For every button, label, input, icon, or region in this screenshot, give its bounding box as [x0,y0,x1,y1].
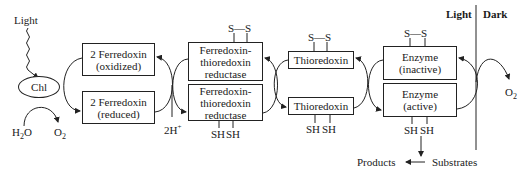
trx-sh-label-2: SH [322,123,336,135]
light-wavy-arrow [27,28,39,78]
thioredoxin-reduced-box: Thioredoxin [288,97,354,115]
box-line: (oxidized) [96,60,141,72]
enzyme-sh-label-1: SH [404,124,418,136]
enzyme-active-box: Enzyme (active) [383,83,457,117]
oxygen-left-label: O2 [54,126,66,143]
box-line: Ferredoxin- [200,85,252,97]
ferredoxin-oxidized-box: 2 Ferredoxin (oxidized) [82,43,155,76]
box-line: Thioredoxin [294,100,348,112]
box-line: thioredoxin [200,56,251,68]
light-label: Light [14,14,38,26]
trx-disulfide-label: S—S [308,31,331,43]
chlorophyll-label: Chl [31,81,47,93]
products-label: Products [357,156,396,168]
light-region-label: Light [446,8,472,20]
box-line: reductase [205,68,247,80]
ftr-disulfide-label: S—S [228,22,251,34]
box-line: thioredoxin [200,97,251,109]
ftr-sh-label-1: SH [211,128,225,140]
box-line: reductase [205,109,247,121]
enzyme-sh-label-2: SH [420,124,434,136]
box-line: Enzyme [402,88,438,100]
box-line: (active) [403,100,437,112]
box-line: Ferredoxin- [200,44,252,56]
box-line: (reduced) [97,108,139,120]
ferredoxin-reduced-box: 2 Ferredoxin (reduced) [82,91,155,124]
oxygen-right-label: O2 [505,86,517,103]
box-line: Enzyme [402,51,438,63]
substrates-label: Substrates [432,156,477,168]
water-split-arc [24,107,58,126]
chl-to-fd-arc [64,58,82,111]
protons-label: 2H+ [164,121,181,136]
thioredoxin-oxidized-box: Thioredoxin [288,51,354,69]
box-line: Thioredoxin [294,54,348,66]
water-label: H2O [12,126,32,143]
box-line: 2 Ferredoxin [90,96,147,108]
chlorophyll-node: Chl [18,76,60,98]
enzyme-inactive-box: Enzyme (inactive) [383,46,457,80]
box-line: 2 Ferredoxin [90,48,147,60]
ftr-reduced-box: Ferredoxin- thioredoxin reductase [188,84,263,121]
trx-sh-label-1: SH [306,123,320,135]
ftr-oxidized-box: Ferredoxin- thioredoxin reductase [188,42,263,81]
box-line: (inactive) [399,63,441,75]
dark-region-label: Dark [483,8,507,20]
ftr-sh-label-2: SH [226,128,240,140]
enzyme-disulfide-label: S—S [404,27,427,39]
